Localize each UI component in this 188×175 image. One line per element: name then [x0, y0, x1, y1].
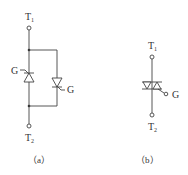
panel-a: T1 G G T2 （a）	[11, 11, 74, 165]
panel-b-gate-label: G	[172, 89, 179, 100]
panel-b-caption: （b）	[136, 155, 159, 165]
panel-b-t1-label: T1	[148, 40, 157, 52]
panel-a-t1-terminal-icon	[27, 26, 31, 30]
panel-b-t1-terminal-icon	[150, 55, 154, 59]
panel-b-triac-icon	[142, 82, 168, 96]
triac-diagram: T1 G G T2 （a） T1	[0, 0, 188, 175]
panel-a-right-gate-label: G	[67, 84, 74, 95]
panel-a-t2-label: T2	[25, 132, 34, 144]
panel-a-caption: （a）	[28, 155, 50, 165]
panel-a-left-thyristor-icon	[20, 70, 34, 82]
panel-a-left-gate-label: G	[11, 65, 18, 76]
panel-b-t2-terminal-icon	[150, 113, 154, 117]
panel-a-t1-label: T1	[25, 11, 34, 23]
panel-a-t2-terminal-icon	[27, 124, 31, 128]
panel-b: T1 G T2 （b）	[136, 40, 179, 165]
panel-a-right-thyristor-icon	[52, 78, 65, 90]
panel-b-t2-label: T2	[148, 121, 157, 133]
